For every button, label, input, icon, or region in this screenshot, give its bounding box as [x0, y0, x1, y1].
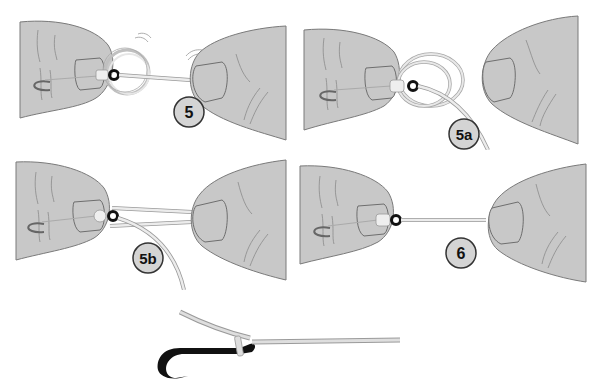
hook-eye — [110, 71, 119, 80]
svg-text:5: 5 — [185, 104, 194, 121]
step-badge-6: 6 — [446, 238, 476, 268]
svg-text:5b: 5b — [139, 250, 157, 267]
hook-icon — [158, 348, 240, 379]
svg-text:6: 6 — [457, 245, 466, 262]
final-knot-illustration — [140, 300, 460, 380]
svg-text:5a: 5a — [456, 126, 473, 143]
step-5b-illustration: 5b — [0, 150, 296, 290]
step-5-illustration: 5 — [0, 0, 296, 150]
step-badge-5: 5 — [174, 97, 204, 127]
step-badge-5b: 5b — [133, 243, 163, 273]
step-5a-illustration: 5a — [296, 0, 593, 150]
step-6-illustration: 6 — [296, 150, 593, 290]
step-badge-5a: 5a — [449, 119, 479, 149]
